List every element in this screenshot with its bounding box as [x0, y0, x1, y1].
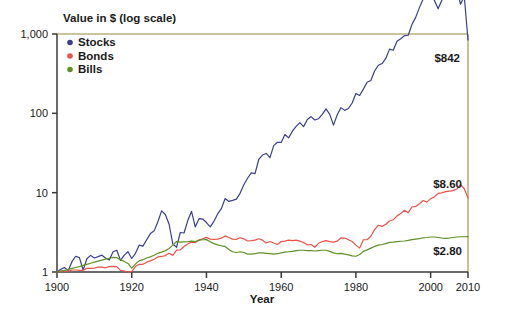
- chart-legend: StocksBondsBills: [67, 36, 116, 75]
- legend-label-bonds: Bonds: [78, 50, 114, 62]
- bonds-end-value: $8.60: [433, 178, 462, 190]
- legend-marker-stocks: [67, 40, 73, 46]
- x-axis-title: Year: [250, 293, 275, 305]
- x-tick-label: 1900: [45, 281, 69, 293]
- legend-marker-bills: [67, 67, 73, 73]
- x-tick-label: 1920: [119, 281, 143, 293]
- legend-label-bills: Bills: [78, 63, 102, 75]
- x-tick-label: 2010: [456, 281, 480, 293]
- y-tick-label: 1: [42, 266, 48, 278]
- endpoint-annotations: $842$8.60$2.80: [433, 52, 462, 257]
- x-axis-ticks: 1900192019401960198020002010: [45, 272, 480, 293]
- y-tick-label: 100: [30, 107, 48, 119]
- chart-canvas: 1,000100101 1900192019401960198020002010…: [0, 0, 510, 320]
- chart-figure: 1,000100101 1900192019401960198020002010…: [0, 0, 510, 320]
- legend-label-stocks: Stocks: [78, 36, 116, 48]
- bills-end-value: $2.80: [433, 245, 462, 257]
- x-tick-label: 1940: [194, 281, 218, 293]
- legend-marker-bonds: [67, 53, 73, 59]
- plot-axes: [57, 34, 468, 272]
- series-lines: [57, 0, 468, 272]
- y-tick-label: 10: [36, 187, 48, 199]
- x-tick-label: 1980: [344, 281, 368, 293]
- y-axis-title: Value in $ (log scale): [63, 12, 176, 24]
- x-tick-label: 2000: [418, 281, 442, 293]
- y-tick-label: 1,000: [20, 28, 48, 40]
- x-tick-label: 1960: [269, 281, 293, 293]
- stocks-end-value: $842: [434, 52, 460, 64]
- plot-frame: [57, 34, 468, 272]
- y-axis-ticks: 1,000100101: [20, 28, 57, 278]
- series-line-stocks: [57, 0, 468, 272]
